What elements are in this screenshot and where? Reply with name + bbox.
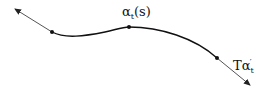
curve-point-label: αt(s) — [122, 4, 151, 21]
alpha-argument: (s) — [134, 4, 151, 19]
left-tangent-arrow — [15, 9, 52, 32]
point-alpha-s — [127, 25, 131, 29]
tangent-subscript: t — [250, 66, 253, 75]
alpha-symbol: α — [122, 4, 131, 19]
tangent-prefix: T — [233, 58, 242, 73]
diagram-canvas: αt(s) Tαt′ — [0, 0, 269, 92]
tangent-label: Tαt′ — [233, 57, 252, 75]
tangent-prime: ′ — [250, 57, 252, 66]
point-left — [50, 30, 54, 34]
curve-alpha — [52, 27, 217, 58]
point-right — [215, 56, 219, 60]
